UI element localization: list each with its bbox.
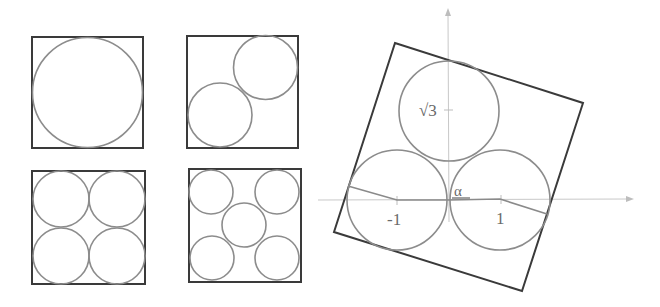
circle xyxy=(89,171,145,227)
circle xyxy=(189,170,233,214)
circle xyxy=(89,228,145,284)
panel-rotated-square: √3 α -1 1 xyxy=(318,8,634,291)
circle xyxy=(188,83,252,147)
circle xyxy=(234,36,298,100)
circle-packing-figure: √3 α -1 1 xyxy=(0,0,660,307)
label-neg-one: -1 xyxy=(387,210,401,229)
y-axis xyxy=(448,14,449,222)
circle xyxy=(33,228,89,284)
segment-left xyxy=(348,186,449,200)
square-frame xyxy=(189,169,301,282)
panel-four-circles xyxy=(32,171,145,284)
square-frame xyxy=(32,171,145,284)
circle xyxy=(33,171,89,227)
label-one: 1 xyxy=(496,209,505,228)
circle xyxy=(255,170,299,214)
panel-five-circles xyxy=(189,169,301,282)
circle xyxy=(255,236,299,280)
label-sqrt3: √3 xyxy=(419,101,437,120)
circle xyxy=(222,203,266,247)
circle xyxy=(190,236,234,280)
panel-one-circle xyxy=(32,37,143,148)
rotated-square-frame xyxy=(334,43,583,291)
x-axis-arrow-icon xyxy=(626,196,634,202)
circle xyxy=(33,38,143,148)
label-alpha: α xyxy=(454,183,462,199)
panel-two-circles xyxy=(187,36,298,149)
y-axis-arrow-icon xyxy=(445,8,451,16)
